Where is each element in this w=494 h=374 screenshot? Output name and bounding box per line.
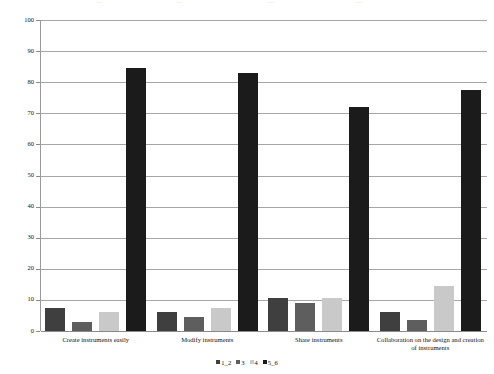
x-axis-label-line: Share instruments — [263, 336, 375, 344]
chart-legend: 1_2345_6 — [0, 357, 494, 367]
y-axis-tick-label: 60 — [4, 141, 34, 148]
x-axis-label-line: Create instruments easily — [40, 336, 152, 344]
bar-groups — [40, 20, 486, 331]
y-axis-tick-label: 20 — [4, 265, 34, 272]
bar-5_6-1 — [238, 73, 258, 331]
legend-item: 1_2 — [216, 357, 231, 367]
legend-label: 5_6 — [268, 358, 278, 367]
bar-group — [375, 20, 487, 331]
x-axis-label: Create instruments easily — [40, 336, 152, 344]
bar-1_2-2 — [268, 298, 288, 331]
bar-group — [152, 20, 264, 331]
scan-artifact-strip: ... ... ... ... — [0, 0, 494, 14]
gridline-0 — [41, 331, 487, 332]
bar-4-0 — [99, 312, 119, 331]
bar-1_2-3 — [380, 312, 400, 331]
legend-label: 3 — [241, 358, 244, 367]
y-axis-tick-label: 50 — [4, 172, 34, 179]
bar-chart: ... ... ... ... 1009080706050403020100 C… — [0, 0, 494, 374]
bar-3-1 — [184, 317, 204, 331]
bar-4-3 — [434, 286, 454, 331]
legend-swatch-icon — [216, 360, 220, 364]
x-axis-label-line: Collaboration on the design and creation — [375, 336, 487, 344]
x-axis-label: Share instruments — [263, 336, 375, 344]
bar-5_6-3 — [461, 90, 481, 331]
bar-4-1 — [211, 308, 231, 331]
bar-1_2-1 — [157, 312, 177, 331]
y-axis-tick-label: 70 — [4, 110, 34, 117]
bar-3-3 — [407, 320, 427, 331]
y-axis-tick-mark — [36, 331, 40, 332]
artifact-fragment: ... — [96, 0, 102, 5]
legend-label: 1_2 — [221, 358, 231, 367]
x-axis-label-line: of instruments — [375, 344, 487, 352]
bar-5_6-0 — [126, 68, 146, 331]
legend-swatch-icon — [250, 360, 254, 364]
bar-1_2-0 — [45, 308, 65, 331]
y-axis-tick-label: 90 — [4, 48, 34, 55]
legend-item: 5_6 — [263, 357, 278, 367]
y-axis-tick-label: 40 — [4, 203, 34, 210]
y-axis-tick-label: 0 — [4, 328, 34, 335]
legend-label: 4 — [255, 358, 258, 367]
x-axis-label-line: Modify instruments — [152, 336, 264, 344]
bar-5_6-2 — [349, 107, 369, 331]
x-axis-label: Modify instruments — [152, 336, 264, 344]
bar-group — [40, 20, 152, 331]
y-axis-tick-label: 30 — [4, 234, 34, 241]
bar-group — [263, 20, 375, 331]
bar-3-2 — [295, 303, 315, 331]
bar-3-0 — [72, 322, 92, 331]
artifact-fragment: ... — [356, 0, 362, 5]
legend-swatch-icon — [263, 360, 267, 364]
artifact-fragment: ... — [176, 0, 182, 5]
y-axis-tick-label: 10 — [4, 296, 34, 303]
legend-item: 4 — [250, 357, 258, 367]
bar-4-2 — [322, 298, 342, 331]
x-axis-label: Collaboration on the design and creation… — [375, 336, 487, 353]
artifact-fragment: ... — [268, 0, 274, 5]
legend-item: 3 — [236, 357, 244, 367]
y-axis-tick-label: 80 — [4, 79, 34, 86]
legend-swatch-icon — [236, 360, 240, 364]
y-axis-tick-label: 100 — [4, 17, 34, 24]
